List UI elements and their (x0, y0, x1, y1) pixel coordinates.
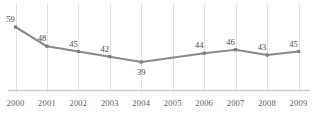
value-label-2007: 46 (226, 37, 235, 47)
data-point-2004 (140, 60, 143, 63)
value-label-2003: 42 (101, 44, 110, 54)
x-tick-2003: 2003 (101, 98, 119, 108)
value-label-2002: 45 (69, 39, 78, 49)
data-point-2000 (14, 25, 17, 28)
data-point-2007 (234, 48, 237, 51)
data-point-2003 (108, 55, 111, 58)
value-label-2000: 59 (6, 14, 15, 24)
data-point-2006 (203, 52, 206, 55)
x-tick-2000: 2000 (7, 98, 25, 108)
x-tick-2007: 2007 (227, 98, 245, 108)
x-tick-2004: 2004 (132, 98, 150, 108)
x-tick-2002: 2002 (69, 98, 87, 108)
data-point-2008 (266, 53, 269, 56)
series-line (16, 27, 299, 62)
data-point-2009 (297, 50, 300, 53)
x-tick-2006: 2006 (195, 98, 213, 108)
data-point-2002 (77, 50, 80, 53)
data-point-2001 (45, 45, 48, 48)
x-tick-2005: 2005 (164, 98, 182, 108)
value-label-2008: 43 (258, 42, 267, 52)
x-tick-2008: 2008 (258, 98, 276, 108)
x-tick-2001: 2001 (38, 98, 56, 108)
x-tick-2009: 2009 (290, 98, 308, 108)
value-label-2006: 44 (195, 40, 204, 50)
value-label-2004: 39 (137, 67, 146, 77)
line-chart: 594845423944464345 200020012002200320042… (0, 0, 318, 115)
value-label-2001: 48 (38, 33, 47, 43)
value-label-2009: 45 (289, 39, 298, 49)
series-line-path (16, 27, 299, 62)
